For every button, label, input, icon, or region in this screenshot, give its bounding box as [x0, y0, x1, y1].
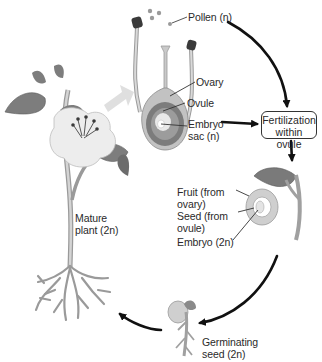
- label-germinating-seed: Germinating seed (2n): [202, 336, 258, 360]
- label-seed: Seed (from ovule): [177, 210, 228, 234]
- arrow-fruit-to-seedling: [200, 256, 277, 323]
- arrow-pollen-to-fertilization: [228, 22, 287, 106]
- fruit-illustration: [233, 168, 300, 240]
- germinating-seed-illustration: [168, 301, 196, 356]
- zoom-arrow: [104, 85, 134, 112]
- arrow-embryosac-to-fertilization: [222, 122, 257, 124]
- arrow-seedling-to-plant: [120, 314, 161, 330]
- label-embryo-sac: Embryo sac (n): [188, 118, 224, 142]
- label-pollen: Pollen (n): [188, 11, 232, 23]
- label-fruit: Fruit (from ovary): [177, 186, 224, 210]
- fertilization-box: Fertilization within ovule: [261, 111, 317, 139]
- life-cycle-diagram: Pollen (n) Ovary Ovule Embryo sac (n) Fe…: [0, 0, 322, 362]
- label-mature-plant: Mature plant (2n): [75, 212, 118, 236]
- diagram-artwork: [0, 0, 322, 362]
- label-ovule: Ovule: [187, 97, 214, 109]
- label-ovary: Ovary: [196, 76, 224, 88]
- label-embryo: Embryo (2n): [177, 236, 234, 248]
- pollen-grains: [148, 9, 172, 26]
